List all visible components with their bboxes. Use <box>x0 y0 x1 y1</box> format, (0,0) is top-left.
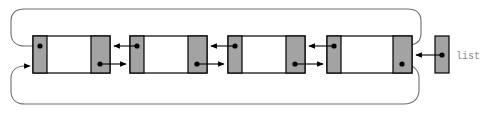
node-4-next-dot <box>399 61 404 66</box>
list-node-1 <box>33 36 110 73</box>
node-4-prev-cell <box>327 36 341 73</box>
node-2-next-cell <box>188 36 207 73</box>
node-3-prev-cell <box>228 36 242 73</box>
diagram-canvas: list <box>0 0 488 115</box>
list-node-2 <box>130 36 207 73</box>
node-1-prev-dot <box>37 43 42 48</box>
list-node-4 <box>327 36 412 73</box>
linked-list-diagram: list <box>0 0 488 115</box>
node-1-prev-cell <box>33 36 47 73</box>
head-pointer-label: list <box>456 51 480 62</box>
list-node-3 <box>228 36 305 73</box>
node-2-prev-cell <box>130 36 144 73</box>
node-1-next-cell <box>91 36 110 73</box>
node-3-next-cell <box>286 36 305 73</box>
node-4-next-cell <box>393 36 412 73</box>
